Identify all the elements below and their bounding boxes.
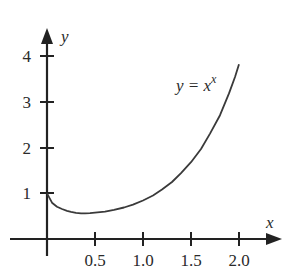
- curve-label: y = xx: [174, 72, 217, 95]
- x-tick-label: 0.5: [84, 251, 105, 270]
- x-tick-label: 2.0: [228, 251, 249, 270]
- y-axis-label: y: [59, 27, 69, 46]
- y-axis-arrow-icon: [41, 28, 53, 44]
- y-tick-label: 3: [23, 93, 32, 112]
- chart: 0.5 1.0 1.5 2.0 1 2 3 4 x y y = xx: [0, 0, 294, 274]
- x-axis-arrow-icon: [266, 233, 282, 245]
- x-tick-label: 1.0: [132, 251, 153, 270]
- x-axis-label: x: [265, 213, 274, 232]
- y-tick-label: 2: [23, 139, 32, 158]
- y-tick-label: 4: [23, 47, 32, 66]
- x-tick-label: 1.5: [180, 251, 201, 270]
- y-tick-label: 1: [23, 184, 32, 203]
